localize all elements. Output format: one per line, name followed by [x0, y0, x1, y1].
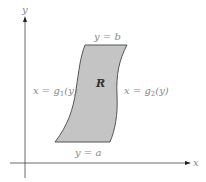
region-label: R: [95, 77, 105, 90]
x-axis-label: x: [193, 157, 199, 168]
left-boundary-label: x = g1(y): [33, 85, 78, 98]
region-diagram: x y R y = b y = a x = g1(y) x = g2(y): [0, 0, 206, 182]
top-boundary-label: y = b: [93, 31, 121, 42]
bottom-boundary-label: y = a: [74, 147, 101, 158]
diagram-canvas: x y R y = b y = a x = g1(y) x = g2(y): [0, 0, 206, 182]
right-boundary-label: x = g2(y): [124, 85, 169, 98]
y-axis-label: y: [21, 4, 28, 15]
x-axis-arrow-icon: [185, 161, 191, 165]
y-axis-arrow-icon: [23, 16, 27, 22]
